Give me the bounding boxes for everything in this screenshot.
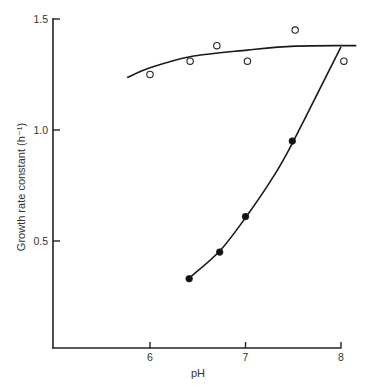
y-tick-label: 1.5 [33, 13, 48, 25]
x-ticks: 678 [147, 342, 344, 363]
data-points [147, 27, 347, 282]
axes [52, 18, 341, 349]
open-circle-marker [244, 58, 250, 64]
fit-curves [127, 46, 356, 279]
y-tick-label: 1.0 [33, 124, 48, 136]
open-circle-marker [292, 27, 298, 33]
filled-circle-marker [216, 249, 223, 256]
filled-circle-marker [186, 275, 193, 282]
open-circle-marker [214, 42, 220, 48]
filled-series-fit-curve [189, 47, 341, 278]
chart: 0.51.01.5 678 Growth rate constant (h⁻¹)… [0, 0, 366, 389]
y-tick-label: 0.5 [33, 235, 48, 247]
open-circle-marker [187, 58, 193, 64]
x-tick-label: 8 [338, 351, 344, 363]
filled-circle-marker [289, 138, 296, 145]
y-axis-label: Growth rate constant (h⁻¹) [15, 123, 27, 251]
x-axis-label: pH [191, 367, 205, 379]
filled-circle-marker [242, 213, 249, 220]
open-circle-marker [147, 71, 153, 77]
x-tick-label: 7 [243, 351, 249, 363]
x-tick-label: 6 [147, 351, 153, 363]
open-circle-marker [341, 58, 347, 64]
open-series-fit-curve [127, 46, 356, 78]
y-ticks: 0.51.01.5 [33, 13, 60, 247]
